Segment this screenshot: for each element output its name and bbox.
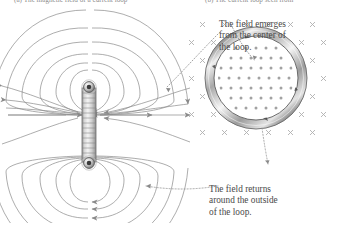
caption-a: (a) The magnetic field of a current loop: [14, 0, 127, 7]
field-returns-note: The field returns around the outside of …: [209, 184, 278, 218]
coil-cross-section: [82, 88, 96, 162]
field-out-of-page-dots: [218, 47, 293, 110]
figure-captions-strip: (a) The magnetic field of a current loop…: [0, 0, 338, 7]
leader-arrowheads: [253, 56, 270, 164]
caption-b: (b) The current loop seen from: [205, 0, 293, 7]
wire-cross-section-top: [82, 80, 96, 94]
wire-cross-section-bottom: [82, 156, 96, 170]
cross-panel-leaders: [128, 26, 228, 206]
figure-magnetic-field-current-loop: (a) The magnetic field of a current loop…: [0, 0, 338, 229]
field-emerges-note: The field emerges from the center of the…: [219, 19, 286, 53]
